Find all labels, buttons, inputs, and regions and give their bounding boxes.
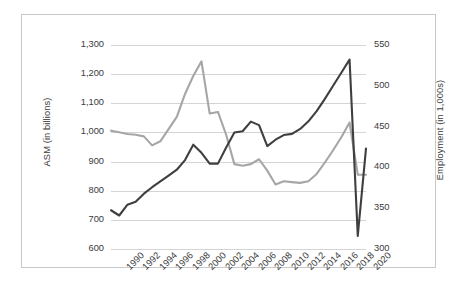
y-axis-left-tick-label: 1,300 <box>81 40 104 49</box>
chart-frame: ASM (in billions) Employment (in 1,000s)… <box>21 14 436 268</box>
y-axis-left-tick-label: 1,200 <box>81 69 104 78</box>
y-axis-left-tick-label: 900 <box>88 157 104 166</box>
y-axis-left-tick-label: 600 <box>88 244 104 253</box>
y-axis-left-tick-label: 1,100 <box>81 98 104 107</box>
y-axis-left-tick-label: 800 <box>88 186 104 195</box>
series-line-asm <box>111 60 366 236</box>
y-axis-right-tick-label: 550 <box>374 40 390 49</box>
y-axis-left-tick-label: 700 <box>88 215 104 224</box>
y-axis-left-title: ASM (in billions) <box>42 62 52 202</box>
series-line-employment <box>111 61 366 184</box>
chart-figure: ASM (in billions) Employment (in 1,000s)… <box>0 0 459 284</box>
y-axis-right-tick-label: 400 <box>374 162 390 171</box>
y-axis-right-tick-label: 450 <box>374 122 390 131</box>
plot-area: 1,3001,2001,1001,000900800700600 5505004… <box>111 45 366 249</box>
y-axis-left-tick-label: 1,000 <box>81 127 104 136</box>
y-axis-right-title: Employment (in 1,000s) <box>435 55 445 205</box>
series-layer <box>111 45 366 249</box>
y-axis-right-tick-label: 500 <box>374 81 390 90</box>
y-axis-right-tick-label: 350 <box>374 203 390 212</box>
x-axis-tick-label: 2020 <box>372 251 393 272</box>
